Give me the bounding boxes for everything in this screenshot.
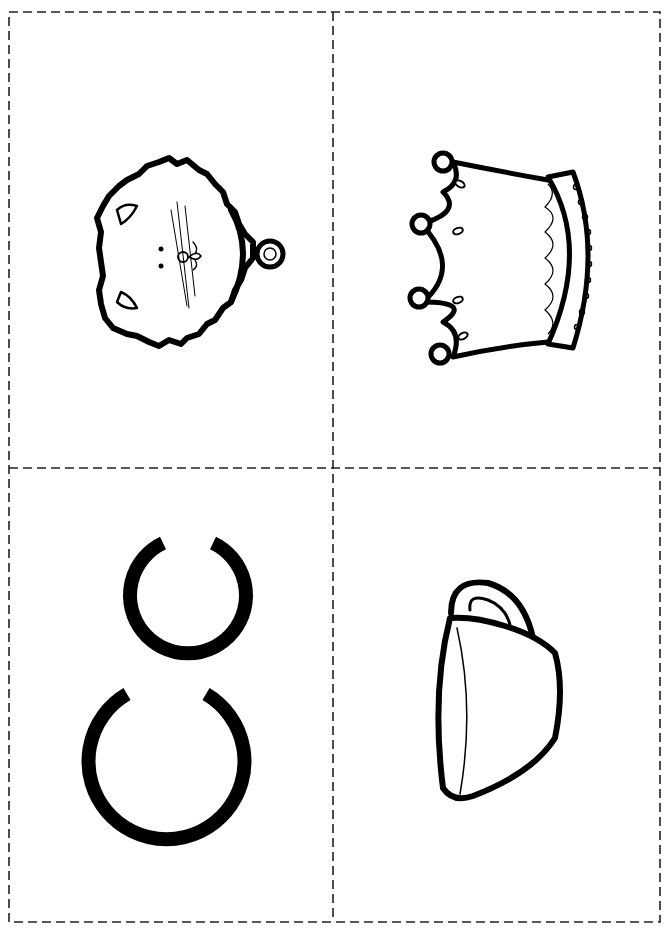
card-crown: crown [333, 12, 660, 468]
cup-icon [333, 468, 660, 922]
crown-icon [333, 12, 660, 468]
flashcard-sheet: cat [0, 0, 669, 938]
card-cat: cat [9, 12, 333, 468]
card-cup: cup [333, 468, 660, 922]
cat-face-icon [9, 12, 333, 468]
letter-c-glyphs [9, 468, 333, 922]
card-letter-c: C c [9, 468, 333, 922]
